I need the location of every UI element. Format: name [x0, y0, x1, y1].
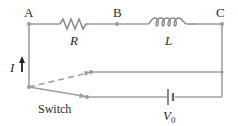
switch-upper-contact-dot: [89, 70, 93, 74]
node-a-dot: [27, 22, 31, 26]
node-b-label: B: [113, 5, 122, 20]
switch-pivot-dot: [27, 85, 31, 89]
node-a-label: A: [24, 5, 34, 20]
current-label: I: [9, 60, 15, 75]
junction-c-upper-dot: [220, 70, 223, 73]
node-c-dot: [220, 22, 224, 26]
switch-label: Switch: [38, 102, 71, 116]
battery-label: V0: [163, 108, 176, 125]
switch-lower-contact-dot: [85, 95, 89, 99]
node-c-label: C: [216, 5, 225, 20]
current-arrow-icon: [19, 56, 25, 63]
wires: [29, 24, 222, 97]
inductor-label: L: [164, 33, 172, 48]
circuit-diagram: A B C R L I Switch V0: [0, 0, 238, 126]
battery-label-subscript: 0: [171, 115, 176, 125]
inductor-icon: [148, 18, 196, 26]
resistor-label: R: [69, 33, 78, 48]
switch-open-position[interactable]: [29, 73, 88, 87]
resistor-icon: [60, 19, 89, 29]
node-b-dot: [115, 22, 119, 26]
switch-closed-position[interactable]: [29, 87, 83, 96]
